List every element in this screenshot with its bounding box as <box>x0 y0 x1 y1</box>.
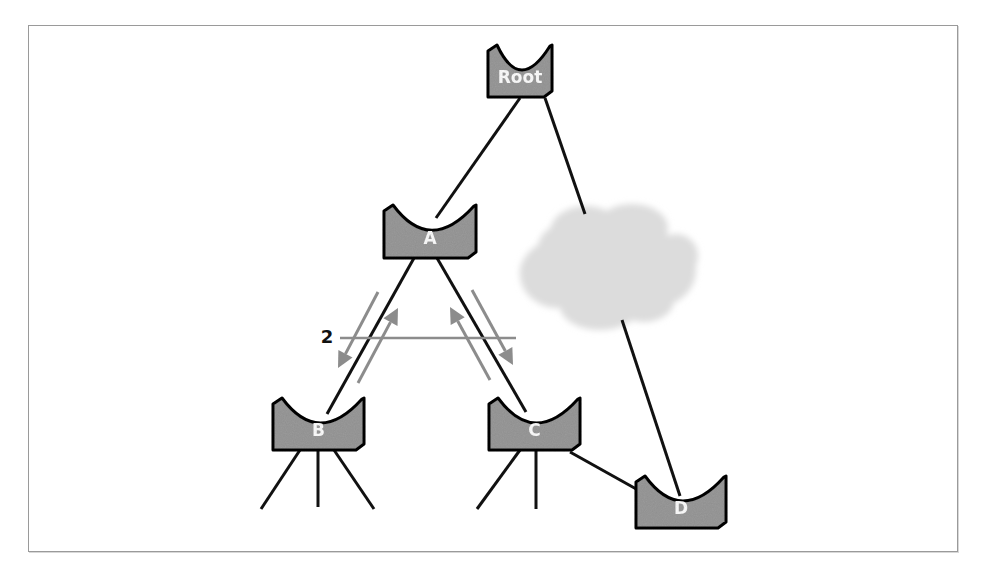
link-c-d <box>570 452 638 490</box>
switch-c[interactable]: C <box>489 398 580 450</box>
stp-diagram: 2 RootABCD <box>0 0 984 572</box>
switch-a[interactable]: A <box>384 205 476 258</box>
bpdu-arrows <box>338 290 513 383</box>
switch-label: D <box>674 498 688 518</box>
link-cloud-d <box>622 320 680 496</box>
marker-label: 2 <box>321 326 334 347</box>
switch-label: B <box>312 420 325 440</box>
link-root-cloud <box>545 98 585 214</box>
switch-label: Root <box>498 67 543 87</box>
host-link-stub <box>334 450 374 509</box>
switch-root[interactable]: Root <box>488 45 552 97</box>
switch-b[interactable]: B <box>273 398 364 450</box>
switch-label: A <box>423 228 437 248</box>
link-a-c <box>437 258 526 412</box>
switch-label: C <box>528 420 540 440</box>
network-cloud <box>520 204 698 330</box>
switch-d[interactable]: D <box>636 476 726 528</box>
link-a-b <box>327 258 414 414</box>
link-root-a <box>436 98 520 218</box>
host-link-stub <box>477 450 520 509</box>
host-link-stub <box>261 450 300 509</box>
host-stubs <box>261 450 536 509</box>
